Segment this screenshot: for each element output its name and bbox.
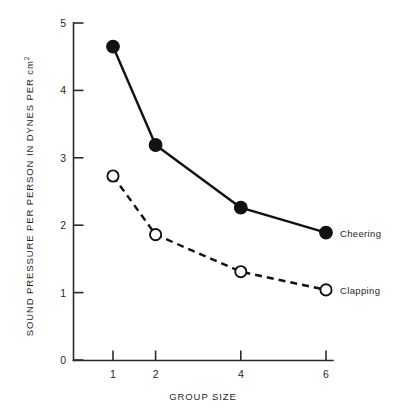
y-tick-label-1: 1 — [60, 287, 66, 299]
cheering-point-4 — [320, 226, 333, 239]
chart-figure: 5 4 3 2 1 0 1 2 4 6 GROUP SIZE SOUND PRE… — [0, 0, 397, 418]
clapping-point-1 — [107, 170, 118, 181]
clapping-point-2 — [150, 229, 161, 240]
sound-pressure-line-chart: 5 4 3 2 1 0 1 2 4 6 GROUP SIZE SOUND PRE… — [0, 0, 397, 418]
clapping-point-4 — [320, 284, 331, 295]
x-tick-label-4: 4 — [238, 368, 244, 380]
y-tick-label-5: 5 — [60, 17, 66, 29]
y-axis-tick-labels: 5 4 3 2 1 0 — [60, 17, 66, 366]
cheering-series-label: Cheering — [340, 228, 381, 239]
cheering-line — [113, 47, 326, 233]
y-axis-ticks — [74, 23, 84, 360]
y-axis-title-superscript: 2 — [23, 56, 30, 61]
x-tick-label-6: 6 — [323, 368, 329, 380]
cheering-point-1 — [107, 40, 120, 53]
cheering-point-3 — [235, 201, 248, 214]
x-axis-tick-labels: 1 2 4 6 — [110, 368, 329, 380]
axes — [74, 23, 334, 361]
y-tick-label-0: 0 — [60, 354, 66, 366]
y-axis-title: SOUND PRESSURE PER PERSON IN DYNES PER c… — [23, 56, 35, 337]
y-tick-label-3: 3 — [60, 152, 66, 164]
clapping-point-3 — [235, 266, 246, 277]
x-tick-label-2: 2 — [153, 368, 159, 380]
x-tick-label-1: 1 — [110, 368, 116, 380]
y-tick-label-2: 2 — [60, 219, 66, 231]
x-axis-title: GROUP SIZE — [169, 391, 236, 402]
cheering-point-2 — [149, 139, 162, 152]
x-axis-ticks — [113, 351, 326, 361]
series-cheering: Cheering — [107, 40, 382, 239]
y-tick-label-4: 4 — [60, 84, 66, 96]
y-axis-title-main: SOUND PRESSURE PER PERSON IN DYNES PER c… — [24, 60, 35, 336]
clapping-series-label: Clapping — [340, 285, 380, 296]
